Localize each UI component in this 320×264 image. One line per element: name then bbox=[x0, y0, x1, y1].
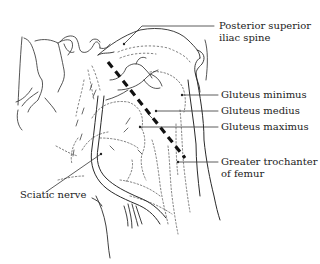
gluteal-muscle-contours bbox=[71, 72, 185, 234]
leader-psis bbox=[124, 26, 214, 44]
leader-lines bbox=[46, 26, 218, 192]
label-gluteus-minimus: Gluteus minimus bbox=[221, 89, 307, 101]
label-posterior-superior-iliac-spine: Posterior superior iliac spine bbox=[219, 20, 311, 44]
anatomy-diagram: Posterior superior iliac spine Gluteus m… bbox=[0, 0, 320, 264]
label-sciatic-nerve: Sciatic nerve bbox=[20, 189, 86, 201]
gluteus-maximus-fibers bbox=[73, 84, 152, 156]
label-greater-trochanter-line1: Greater trochanter bbox=[221, 156, 318, 168]
landmark-dashed-line bbox=[108, 62, 185, 158]
label-psis-line2: iliac spine bbox=[219, 32, 311, 44]
leader-sciatic-nerve bbox=[46, 154, 101, 192]
hamstring-outline bbox=[92, 196, 142, 258]
label-greater-trochanter-line2: of femur bbox=[221, 168, 318, 180]
label-psis-line1: Posterior superior bbox=[219, 20, 311, 32]
iliac-crest-texture bbox=[76, 46, 190, 116]
label-gluteus-maximus: Gluteus maximus bbox=[221, 121, 309, 133]
label-gluteus-medius: Gluteus medius bbox=[221, 105, 300, 117]
ilium-outline bbox=[98, 28, 207, 92]
lower-thigh-contours bbox=[56, 146, 172, 214]
label-greater-trochanter: Greater trochanter of femur bbox=[221, 156, 318, 180]
